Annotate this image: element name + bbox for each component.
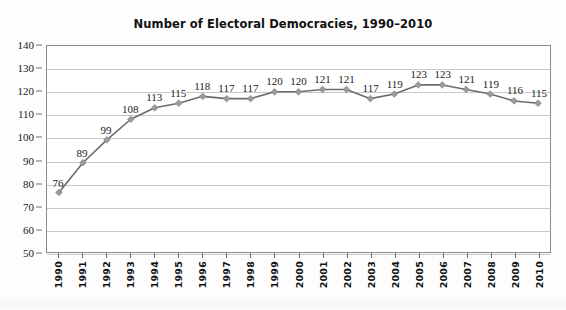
x-tick-label: 2005 [414, 261, 425, 288]
x-tick-label: 1997 [221, 261, 232, 288]
y-tick-mark [36, 45, 42, 46]
data-point-marker [175, 100, 182, 107]
x-tick-label: 2010 [534, 261, 545, 288]
x-tick-label: 1995 [173, 261, 184, 288]
y-tick-mark [36, 160, 42, 161]
x-tick-mark [419, 253, 420, 258]
x-tick-mark [154, 253, 155, 258]
y-tick-label: 50 [23, 247, 34, 259]
y-tick-label: 140 [18, 39, 35, 51]
data-point-marker [511, 98, 518, 105]
x-tick-label: 2008 [486, 261, 497, 288]
x-tick-mark [371, 253, 372, 258]
data-point-marker [439, 82, 446, 89]
y-tick-label: 120 [18, 85, 35, 97]
data-point-marker [391, 91, 398, 98]
y-tick-mark [36, 206, 42, 207]
x-tick-label: 1992 [101, 261, 112, 288]
x-tick-label: 2006 [438, 261, 449, 288]
y-tick-label: 70 [23, 201, 34, 213]
y-tick-label: 60 [23, 224, 34, 236]
x-tick-label: 2002 [342, 261, 353, 288]
x-tick-label: 2004 [390, 261, 401, 288]
chart-figure: Number of Electoral Democracies, 1990–20… [0, 0, 566, 310]
data-point-marker [319, 86, 326, 93]
data-point-marker [271, 88, 278, 95]
x-tick-mark [106, 253, 107, 258]
y-tick-label: 90 [23, 155, 34, 167]
x-tick-mark [347, 253, 348, 258]
series-polyline [59, 85, 538, 193]
x-tick-mark [202, 253, 203, 258]
y-tick-mark [36, 253, 42, 254]
data-point-marker [535, 100, 542, 107]
x-tick-label: 1993 [125, 261, 136, 288]
y-tick-mark [36, 183, 42, 184]
y-tick-mark [36, 91, 42, 92]
x-tick-label: 2001 [318, 261, 329, 288]
data-point-marker [223, 95, 230, 102]
x-tick-mark [226, 253, 227, 258]
data-point-marker [295, 88, 302, 95]
x-tick-mark [395, 253, 396, 258]
x-tick-label: 1996 [197, 261, 208, 288]
x-tick-mark [443, 253, 444, 258]
data-point-marker [415, 82, 422, 89]
x-tick-label: 2000 [294, 261, 305, 288]
x-tick-mark [58, 253, 59, 258]
y-tick-mark [36, 68, 42, 69]
series-line [47, 46, 550, 252]
x-tick-mark [323, 253, 324, 258]
data-point-marker [463, 86, 470, 93]
x-tick-mark [130, 253, 131, 258]
y-tick-label: 100 [18, 131, 35, 143]
x-tick-mark [82, 253, 83, 258]
y-tick-mark [36, 229, 42, 230]
data-point-marker [247, 95, 254, 102]
x-tick-mark [467, 253, 468, 258]
x-tick-label: 1994 [149, 261, 160, 288]
data-point-marker [367, 95, 374, 102]
x-axis: 1990199119921993199419951996199719981999… [46, 253, 551, 308]
data-point-marker [487, 91, 494, 98]
chart-title: Number of Electoral Democracies, 1990–20… [0, 17, 566, 31]
y-tick-label: 110 [18, 108, 34, 120]
y-tick-mark [36, 114, 42, 115]
y-tick-label: 130 [18, 62, 35, 74]
x-tick-label: 2007 [462, 261, 473, 288]
x-tick-label: 2003 [366, 261, 377, 288]
data-point-marker [199, 93, 206, 100]
plot-area: 7689991081131151181171171201201211211171… [46, 45, 551, 253]
y-axis: 5060708090100110120130140 [0, 45, 42, 253]
x-tick-mark [539, 253, 540, 258]
x-tick-mark [515, 253, 516, 258]
y-tick-label: 80 [23, 178, 34, 190]
x-tick-mark [299, 253, 300, 258]
data-point-marker [343, 86, 350, 93]
x-tick-mark [178, 253, 179, 258]
y-tick-mark [36, 137, 42, 138]
x-tick-label: 1998 [245, 261, 256, 288]
data-point-marker [151, 104, 158, 111]
x-tick-label: 2009 [510, 261, 521, 288]
x-tick-mark [274, 253, 275, 258]
x-tick-label: 1990 [53, 261, 64, 288]
x-tick-label: 1999 [269, 261, 280, 288]
x-tick-mark [250, 253, 251, 258]
x-tick-label: 1991 [77, 261, 88, 288]
x-tick-mark [491, 253, 492, 258]
